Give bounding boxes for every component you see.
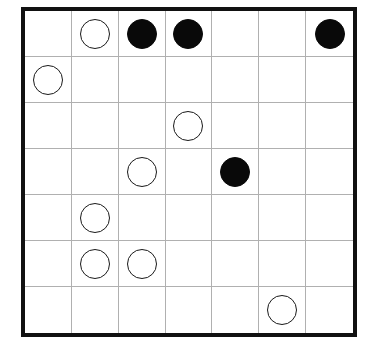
grid-cell[interactable] xyxy=(25,57,72,103)
white-circle-icon xyxy=(80,203,110,233)
white-circle-icon xyxy=(127,157,157,187)
white-circle-icon xyxy=(80,19,110,49)
grid-cell[interactable] xyxy=(259,195,306,241)
black-circle-icon xyxy=(220,157,250,187)
black-circle-icon xyxy=(315,19,345,49)
grid-cell[interactable] xyxy=(119,287,166,333)
black-circle-icon xyxy=(173,19,203,49)
grid-cell[interactable] xyxy=(212,103,259,149)
grid-cell[interactable] xyxy=(25,103,72,149)
grid-cell[interactable] xyxy=(212,287,259,333)
grid-cell[interactable] xyxy=(212,11,259,57)
grid-cell[interactable] xyxy=(166,195,213,241)
grid-cell[interactable] xyxy=(119,57,166,103)
grid-cell[interactable] xyxy=(72,11,119,57)
grid-cell[interactable] xyxy=(212,241,259,287)
grid-cell[interactable] xyxy=(72,195,119,241)
grid-cell[interactable] xyxy=(212,149,259,195)
grid-cell[interactable] xyxy=(72,57,119,103)
grid-cell[interactable] xyxy=(306,241,353,287)
puzzle-grid xyxy=(25,11,353,333)
grid-cell[interactable] xyxy=(72,149,119,195)
grid-cell[interactable] xyxy=(25,195,72,241)
grid-cell[interactable] xyxy=(119,11,166,57)
grid-cell[interactable] xyxy=(119,195,166,241)
grid-cell[interactable] xyxy=(212,195,259,241)
white-circle-icon xyxy=(80,249,110,279)
grid-cell[interactable] xyxy=(72,287,119,333)
grid-cell[interactable] xyxy=(259,11,306,57)
grid-cell[interactable] xyxy=(25,11,72,57)
grid-cell[interactable] xyxy=(259,149,306,195)
grid-cell[interactable] xyxy=(306,11,353,57)
grid-cell[interactable] xyxy=(72,103,119,149)
grid-cell[interactable] xyxy=(306,195,353,241)
grid-cell[interactable] xyxy=(166,241,213,287)
grid-cell[interactable] xyxy=(259,241,306,287)
grid-cell[interactable] xyxy=(306,103,353,149)
grid-cell[interactable] xyxy=(119,241,166,287)
black-circle-icon xyxy=(127,19,157,49)
grid-cell[interactable] xyxy=(25,241,72,287)
grid-cell[interactable] xyxy=(212,57,259,103)
grid-cell[interactable] xyxy=(25,149,72,195)
grid-cell[interactable] xyxy=(166,149,213,195)
grid-cell[interactable] xyxy=(25,287,72,333)
grid-cell[interactable] xyxy=(166,103,213,149)
white-circle-icon xyxy=(173,111,203,141)
grid-cell[interactable] xyxy=(166,287,213,333)
grid-cell[interactable] xyxy=(259,287,306,333)
grid-cell[interactable] xyxy=(259,103,306,149)
puzzle-board xyxy=(21,7,357,337)
grid-cell[interactable] xyxy=(119,103,166,149)
white-circle-icon xyxy=(33,65,63,95)
grid-cell[interactable] xyxy=(306,149,353,195)
grid-cell[interactable] xyxy=(259,57,306,103)
grid-cell[interactable] xyxy=(166,11,213,57)
grid-cell[interactable] xyxy=(72,241,119,287)
grid-cell[interactable] xyxy=(119,149,166,195)
grid-cell[interactable] xyxy=(166,57,213,103)
puzzle-root xyxy=(0,0,378,351)
grid-cell[interactable] xyxy=(306,287,353,333)
white-circle-icon xyxy=(267,295,297,325)
white-circle-icon xyxy=(127,249,157,279)
grid-cell[interactable] xyxy=(306,57,353,103)
